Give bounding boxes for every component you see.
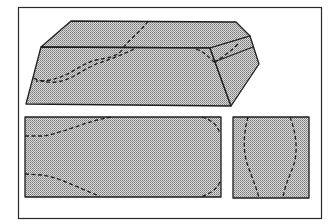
top-face — [41, 21, 250, 48]
diagram-canvas — [0, 0, 334, 224]
front-face — [26, 47, 231, 106]
side-view — [233, 117, 309, 198]
front-view-rect — [25, 117, 221, 197]
isometric-view — [26, 21, 259, 106]
front-view — [25, 117, 221, 197]
side-view-rect — [233, 117, 309, 198]
